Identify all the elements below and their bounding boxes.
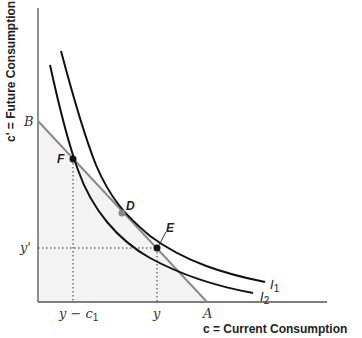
label-point-d: D — [126, 200, 135, 212]
label-point-f: F — [57, 153, 64, 165]
intertemporal-choice-diagram: c' = Future Consumption c = Current Cons… — [0, 0, 362, 338]
point-d-marker — [119, 210, 126, 217]
label-curve-i2: I2 — [260, 290, 269, 306]
label-c1-subscript: 1 — [93, 312, 99, 323]
label-point-e: E — [166, 222, 174, 234]
diagram-canvas — [0, 0, 362, 338]
label-b: B — [24, 115, 34, 128]
label-i2-subscript: 2 — [264, 295, 270, 306]
label-curve-i1: I1 — [270, 278, 279, 294]
label-i1-subscript: 1 — [274, 283, 280, 294]
e-label-leader — [159, 232, 166, 245]
label-a: A — [203, 307, 212, 320]
label-y-prime: y' — [20, 241, 31, 254]
point-f-marker — [70, 156, 77, 163]
label-y-minus-c: y − c — [59, 306, 93, 321]
x-axis-title: c = Current Consumption — [203, 323, 347, 335]
label-y-minus-c1: y − c1 — [59, 307, 98, 323]
y-axis-title: c' = Future Consumption — [5, 1, 17, 142]
label-y: y — [153, 307, 160, 320]
point-e-marker — [154, 245, 161, 252]
